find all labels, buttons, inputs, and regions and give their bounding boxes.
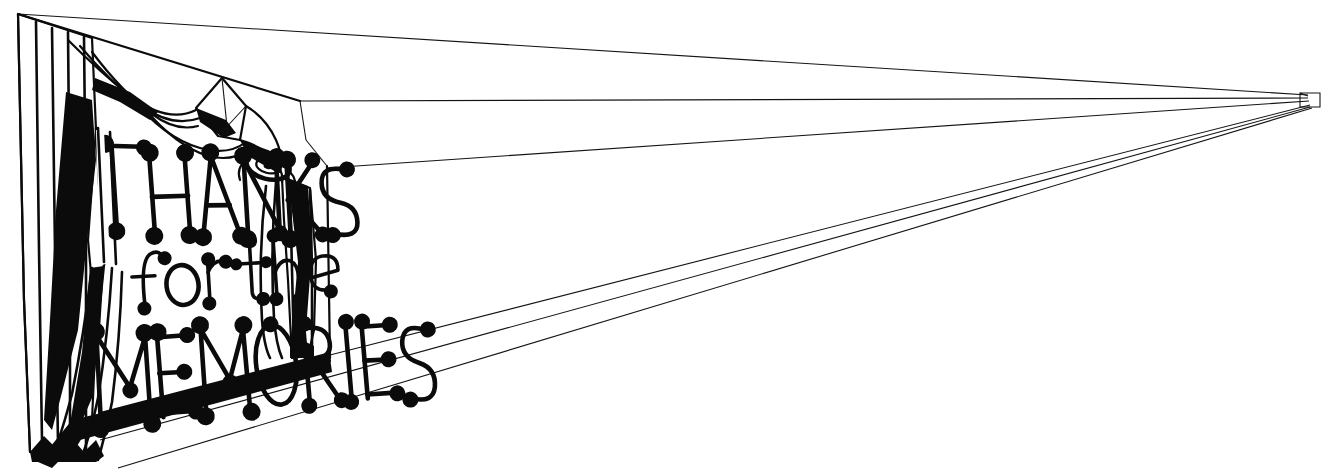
letter-f [129, 250, 179, 317]
letter-r [195, 249, 239, 311]
perspective-line-ceiling [18, 14, 1308, 95]
stage-drawing [0, 0, 1334, 471]
illustration-canvas: THANKS for the MEMORIES Thanks for the M… [0, 0, 1334, 471]
perspective-line-right-bottom [330, 105, 1310, 355]
perspective-line-right-top [327, 101, 1309, 168]
letter-o [164, 263, 201, 307]
perspective-line-upper-wall [300, 98, 1308, 101]
